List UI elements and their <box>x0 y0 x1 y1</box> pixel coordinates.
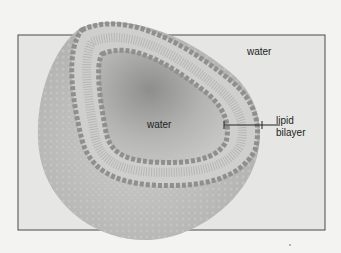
inner-water-label: water <box>147 119 171 130</box>
bilayer-label-line2: bilayer <box>276 127 305 138</box>
outer-water-label: water <box>247 46 271 57</box>
bilayer-label-line1: lipid <box>276 115 294 126</box>
